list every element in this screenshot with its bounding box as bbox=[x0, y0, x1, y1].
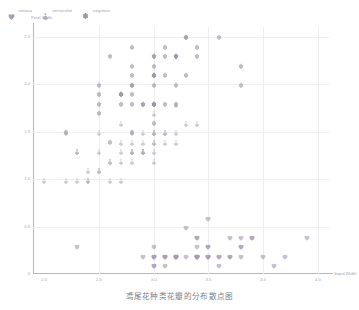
data-point-versicolor[interactable] bbox=[183, 113, 191, 131]
data-point-virginica[interactable] bbox=[128, 85, 136, 103]
data-point-virginica[interactable] bbox=[150, 47, 158, 65]
data-point-virginica[interactable] bbox=[150, 113, 158, 131]
y-axis-line bbox=[33, 23, 34, 274]
data-point-setosa[interactable] bbox=[161, 246, 169, 264]
data-point-virginica[interactable] bbox=[238, 75, 246, 93]
data-point-setosa[interactable] bbox=[194, 227, 202, 245]
data-point-virginica[interactable] bbox=[106, 47, 114, 65]
data-point-setosa[interactable] bbox=[205, 208, 213, 226]
data-point-versicolor[interactable] bbox=[150, 151, 158, 169]
y-tick-label: 2.0 bbox=[24, 82, 30, 86]
legend-item-setosa[interactable]: setosa bbox=[7, 7, 32, 16]
x-tick-label: 2.5 bbox=[96, 278, 102, 282]
x-axis-line bbox=[33, 273, 333, 274]
data-point-versicolor[interactable] bbox=[128, 142, 136, 160]
data-point-setosa[interactable] bbox=[227, 246, 235, 264]
data-point-setosa[interactable] bbox=[205, 237, 213, 255]
data-point-setosa[interactable] bbox=[73, 237, 81, 255]
data-point-versicolor[interactable] bbox=[40, 170, 48, 188]
data-point-versicolor[interactable] bbox=[194, 113, 202, 131]
data-point-virginica[interactable] bbox=[150, 94, 158, 112]
data-point-versicolor[interactable] bbox=[84, 170, 92, 188]
chart-legend: setosaversicolorvirginica bbox=[7, 6, 110, 17]
data-point-virginica[interactable] bbox=[128, 123, 136, 141]
data-point-virginica[interactable] bbox=[183, 28, 191, 46]
data-point-versicolor[interactable] bbox=[172, 123, 180, 141]
y-tick-label: 1.5 bbox=[24, 129, 30, 133]
data-point-versicolor[interactable] bbox=[95, 161, 103, 179]
scatter-chart: setosaversicolorvirginica Petal.Width Se… bbox=[0, 0, 359, 310]
x-tick-label: 4.0 bbox=[260, 278, 266, 282]
data-point-virginica[interactable] bbox=[62, 123, 70, 141]
data-point-virginica[interactable] bbox=[161, 94, 169, 112]
data-point-setosa[interactable] bbox=[249, 227, 257, 245]
data-point-virginica[interactable] bbox=[128, 37, 136, 55]
data-point-versicolor[interactable] bbox=[106, 170, 114, 188]
legend-label: versicolor bbox=[53, 9, 73, 13]
data-point-virginica[interactable] bbox=[106, 132, 114, 150]
gridline-horizontal bbox=[33, 37, 329, 38]
data-point-setosa[interactable] bbox=[281, 246, 289, 264]
data-point-versicolor[interactable] bbox=[62, 170, 70, 188]
data-point-virginica[interactable] bbox=[139, 94, 147, 112]
data-point-setosa[interactable] bbox=[238, 227, 246, 245]
data-point-versicolor[interactable] bbox=[139, 142, 147, 160]
data-point-virginica[interactable] bbox=[172, 47, 180, 65]
data-point-versicolor[interactable] bbox=[150, 132, 158, 150]
data-point-setosa[interactable] bbox=[150, 237, 158, 255]
data-point-setosa[interactable] bbox=[172, 246, 180, 264]
legend-label: virginica bbox=[93, 9, 110, 13]
data-point-versicolor[interactable] bbox=[106, 151, 114, 169]
data-point-virginica[interactable] bbox=[238, 56, 246, 74]
data-point-setosa[interactable] bbox=[238, 246, 246, 264]
data-point-versicolor[interactable] bbox=[95, 123, 103, 141]
data-point-virginica[interactable] bbox=[95, 85, 103, 103]
data-point-versicolor[interactable] bbox=[73, 170, 81, 188]
flower-icon bbox=[81, 7, 90, 16]
y-tick-label: 2.5 bbox=[24, 34, 30, 38]
data-point-setosa[interactable] bbox=[194, 246, 202, 264]
data-point-setosa[interactable] bbox=[183, 218, 191, 236]
data-point-setosa[interactable] bbox=[303, 227, 311, 245]
data-point-virginica[interactable] bbox=[161, 66, 169, 84]
plot-area: Petal.Width Sepal.Width 2.02.53.03.54.04… bbox=[33, 27, 329, 274]
gridline-vertical bbox=[263, 27, 264, 274]
data-point-versicolor[interactable] bbox=[73, 142, 81, 160]
data-point-virginica[interactable] bbox=[216, 28, 224, 46]
y-axis-title: Petal.Width bbox=[31, 16, 52, 20]
data-point-versicolor[interactable] bbox=[117, 170, 125, 188]
x-axis-title: Sepal.Width bbox=[334, 272, 357, 276]
data-point-virginica[interactable] bbox=[117, 85, 125, 103]
data-point-setosa[interactable] bbox=[227, 227, 235, 245]
data-point-setosa[interactable] bbox=[139, 246, 147, 264]
x-tick-label: 4.5 bbox=[315, 278, 321, 282]
x-tick-label: 3.0 bbox=[151, 278, 157, 282]
data-point-versicolor[interactable] bbox=[117, 142, 125, 160]
data-point-setosa[interactable] bbox=[216, 256, 224, 274]
gridline-horizontal bbox=[33, 132, 329, 133]
data-point-versicolor[interactable] bbox=[117, 113, 125, 131]
data-point-virginica[interactable] bbox=[183, 66, 191, 84]
data-point-virginica[interactable] bbox=[172, 94, 180, 112]
data-point-virginica[interactable] bbox=[194, 47, 202, 65]
gridline-vertical bbox=[318, 27, 319, 274]
data-point-virginica[interactable] bbox=[172, 75, 180, 93]
gridline-horizontal bbox=[33, 227, 329, 228]
heart-icon bbox=[7, 7, 16, 16]
data-point-versicolor[interactable] bbox=[161, 123, 169, 141]
y-tick-label: 0.5 bbox=[24, 224, 30, 228]
data-point-setosa[interactable] bbox=[183, 246, 191, 264]
data-point-setosa[interactable] bbox=[270, 256, 278, 274]
gridline-horizontal bbox=[33, 84, 329, 85]
legend-item-virginica[interactable]: virginica bbox=[81, 7, 110, 16]
data-point-virginica[interactable] bbox=[150, 75, 158, 93]
x-tick-label: 3.5 bbox=[205, 278, 211, 282]
x-tick-label: 2.0 bbox=[41, 278, 47, 282]
data-point-virginica[interactable] bbox=[161, 47, 169, 65]
y-tick-label: 0 bbox=[28, 272, 30, 276]
chart-title: 鸢尾花种类花瓣的分布散点图 bbox=[0, 293, 359, 301]
data-point-setosa[interactable] bbox=[259, 246, 267, 264]
data-point-virginica[interactable] bbox=[128, 56, 136, 74]
data-point-versicolor[interactable] bbox=[95, 142, 103, 160]
data-point-versicolor[interactable] bbox=[139, 123, 147, 141]
